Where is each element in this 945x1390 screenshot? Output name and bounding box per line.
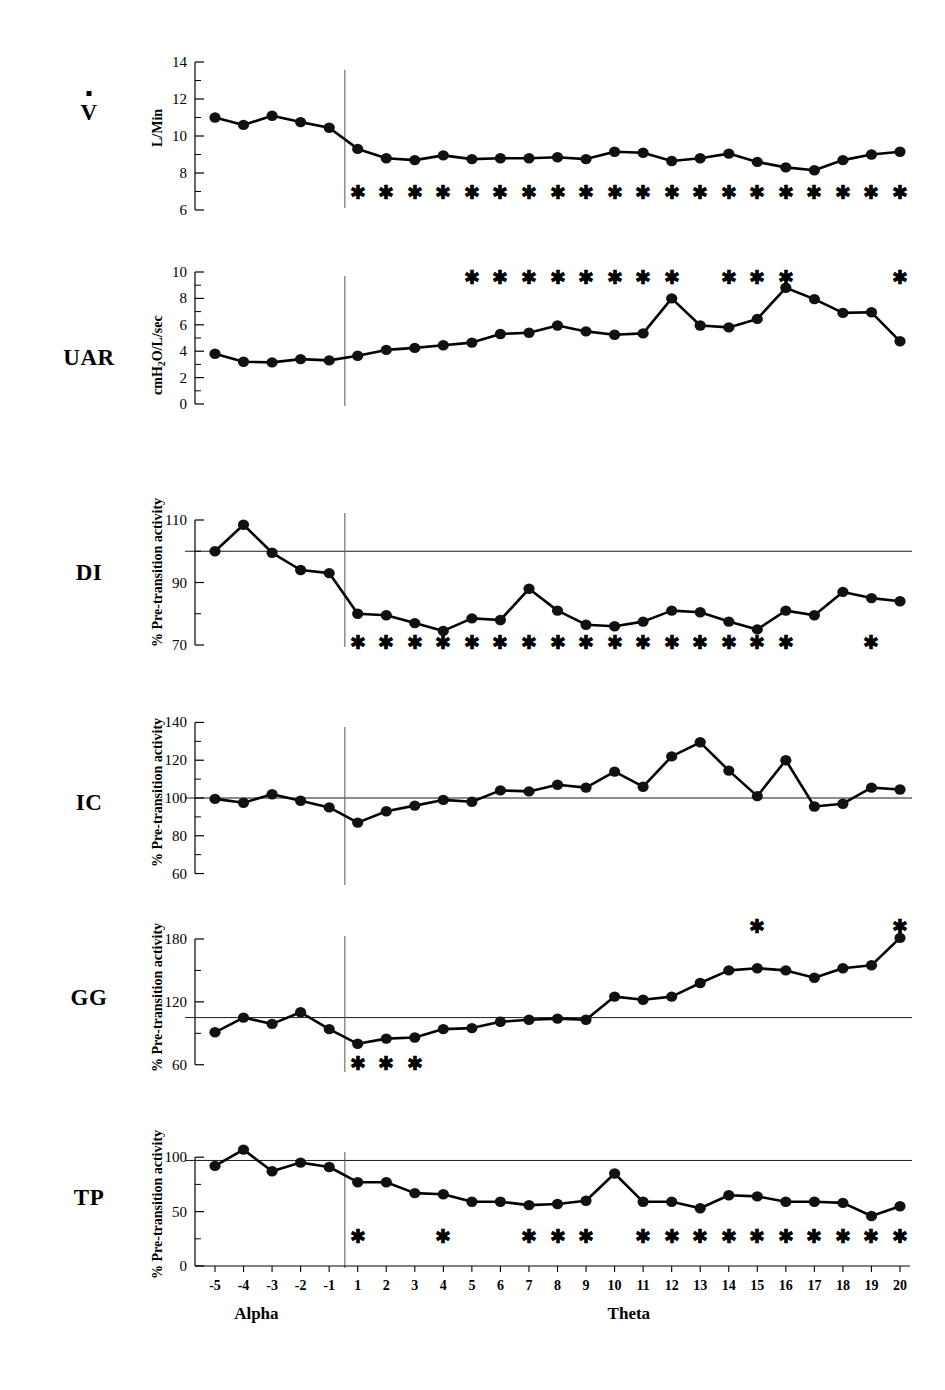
phase-label-alpha: Alpha: [185, 1304, 328, 1324]
significance-star: ✱: [664, 268, 680, 287]
y-tick-label: 80: [153, 827, 187, 844]
significance-star: ✱: [749, 268, 765, 287]
y-tick-label: 120: [153, 752, 187, 769]
series-line: [215, 116, 900, 171]
x-tick-label: -3: [259, 1278, 285, 1294]
significance-star: ✱: [578, 268, 594, 287]
x-tick-label: 2: [373, 1278, 399, 1294]
significance-star: ✱: [863, 632, 879, 651]
significance-star: ✱: [664, 182, 680, 201]
series-line: [215, 288, 900, 363]
significance-star: ✱: [521, 632, 537, 651]
y-tick-label: 60: [153, 865, 187, 882]
significance-star: ✱: [721, 1226, 737, 1245]
significance-star: ✱: [435, 1226, 451, 1245]
y-tick-label: 6: [153, 202, 187, 219]
significance-star: ✱: [892, 182, 908, 201]
x-tick-label: 17: [801, 1278, 827, 1294]
x-tick-label: 5: [459, 1278, 485, 1294]
significance-star: ✱: [664, 1226, 680, 1245]
x-tick-label: 10: [602, 1278, 628, 1294]
significance-star: ✱: [350, 1053, 366, 1072]
x-tick-label: 11: [630, 1278, 656, 1294]
significance-star: ✱: [892, 1226, 908, 1245]
significance-star: ✱: [492, 268, 508, 287]
significance-star: ✱: [435, 182, 451, 201]
significance-star: ✱: [378, 632, 394, 651]
panel-title-text: V: [80, 100, 97, 125]
x-tick-label: -1: [316, 1278, 342, 1294]
significance-star: ✱: [749, 1226, 765, 1245]
significance-star: ✱: [778, 182, 794, 201]
y-tick-label: 10: [153, 128, 187, 145]
significance-star: ✱: [521, 1226, 537, 1245]
x-tick-label: 8: [545, 1278, 571, 1294]
significance-star: ✱: [378, 182, 394, 201]
significance-star: ✱: [778, 632, 794, 651]
y-tick-label: 100: [153, 1149, 187, 1166]
significance-star: ✱: [492, 632, 508, 651]
x-tick-label: 12: [659, 1278, 685, 1294]
significance-star: ✱: [350, 182, 366, 201]
significance-star: ✱: [550, 268, 566, 287]
x-tick-label: -5: [202, 1278, 228, 1294]
significance-star: ✱: [835, 1226, 851, 1245]
y-tick-label: 0: [153, 1258, 187, 1275]
significance-star: ✱: [435, 632, 451, 651]
x-tick-label: -2: [288, 1278, 314, 1294]
y-tick-label: 4: [153, 343, 187, 360]
significance-star: ✱: [692, 182, 708, 201]
significance-star: ✱: [607, 268, 623, 287]
y-tick-label: 12: [153, 91, 187, 108]
significance-star: ✱: [749, 182, 765, 201]
series-line: [215, 525, 900, 631]
significance-star: ✱: [664, 632, 680, 651]
y-tick-label: 110: [153, 512, 187, 529]
y-tick-label: 100: [153, 790, 187, 807]
panel-title-uar: UAR: [24, 345, 154, 371]
x-tick-label: 13: [687, 1278, 713, 1294]
significance-star: ✱: [863, 182, 879, 201]
significance-star: ✱: [407, 182, 423, 201]
significance-star: ✱: [778, 1226, 794, 1245]
y-tick-label: 140: [153, 714, 187, 731]
significance-star: ✱: [749, 917, 765, 936]
significance-star: ✱: [407, 1053, 423, 1072]
significance-star: ✱: [350, 1226, 366, 1245]
x-tick-label: 3: [402, 1278, 428, 1294]
significance-star: ✱: [607, 632, 623, 651]
significance-star: ✱: [635, 268, 651, 287]
significance-star: ✱: [863, 1226, 879, 1245]
y-tick-label: 180: [153, 930, 187, 947]
significance-star: ✱: [635, 1226, 651, 1245]
y-tick-label: 70: [153, 637, 187, 654]
y-tick-label: 8: [153, 290, 187, 307]
multi-panel-timeseries-figure: VL/Min68101214✱✱✱✱✱✱✱✱✱✱✱✱✱✱✱✱✱✱✱✱UARcmH…: [0, 0, 945, 1390]
y-tick-label: 8: [153, 165, 187, 182]
x-tick-label: 6: [487, 1278, 513, 1294]
v-dot-icon: [87, 91, 92, 96]
x-tick-label: 16: [773, 1278, 799, 1294]
x-tick-label: 9: [573, 1278, 599, 1294]
x-tick-label: 15: [744, 1278, 770, 1294]
significance-star: ✱: [806, 1226, 822, 1245]
significance-star: ✱: [378, 1053, 394, 1072]
x-tick-label: 20: [887, 1278, 913, 1294]
significance-star: ✱: [721, 268, 737, 287]
significance-star: ✱: [521, 182, 537, 201]
phase-label-theta: Theta: [358, 1304, 900, 1324]
significance-star: ✱: [635, 632, 651, 651]
significance-star: ✱: [578, 182, 594, 201]
y-tick-label: 60: [153, 1056, 187, 1073]
series-line: [215, 938, 900, 1044]
x-tick-label: 19: [858, 1278, 884, 1294]
significance-star: ✱: [464, 268, 480, 287]
series-line: [215, 742, 900, 822]
y-tick-label: 14: [153, 54, 187, 71]
significance-star: ✱: [692, 632, 708, 651]
y-tick-label: 6: [153, 316, 187, 333]
significance-star: ✱: [778, 268, 794, 287]
significance-star: ✱: [635, 182, 651, 201]
significance-star: ✱: [692, 1226, 708, 1245]
significance-star: ✱: [892, 268, 908, 287]
